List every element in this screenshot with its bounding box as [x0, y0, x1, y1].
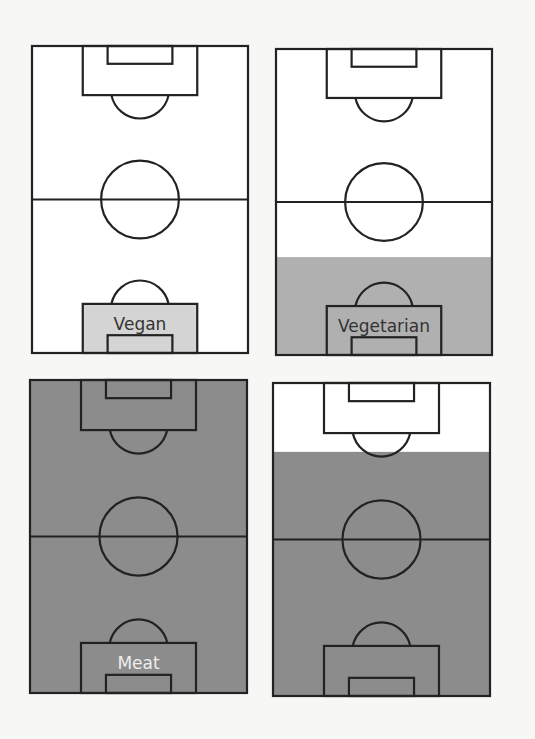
- pitch-label-vegetarian: Vegetarian: [338, 316, 430, 336]
- fill-area: [273, 452, 490, 696]
- pitch-label-vegan: Vegan: [114, 314, 167, 334]
- pitch-label-meat: Meat: [117, 653, 160, 673]
- pitch-meat: Meat: [30, 380, 247, 693]
- pitch-vegetarian: Vegetarian: [276, 49, 492, 355]
- pitch-vegan: Vegan: [32, 46, 248, 353]
- pitch-unlabeled: [273, 383, 490, 696]
